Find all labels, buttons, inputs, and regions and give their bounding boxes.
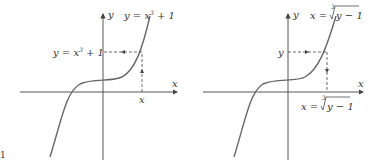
curve-label: y = x3 + 1 xyxy=(123,9,175,21)
y-value-label: y = x3 + 1 xyxy=(52,46,104,58)
curve-label: x = 3 y − 1 xyxy=(310,3,363,21)
svg-text:y − 1: y − 1 xyxy=(326,101,354,112)
figure-marker: 1 xyxy=(0,150,6,160)
arrow-right-icon xyxy=(305,50,309,54)
x-value-label: x = 3 y − 1 xyxy=(301,94,354,112)
y-axis-label: y xyxy=(292,9,299,20)
svg-text:x =: x = xyxy=(310,10,327,21)
x-value-label: x xyxy=(139,94,145,105)
inverse-function-diagram: y x y = x3 + 1 y = x3 + 1 x y x x = 3 y … xyxy=(0,0,378,168)
arrow-left-icon xyxy=(121,50,125,54)
cubic-curve xyxy=(234,16,336,157)
arrow-up-icon xyxy=(140,69,144,73)
x-axis-label: x xyxy=(172,78,178,89)
x-axis-label: x xyxy=(358,78,364,89)
left-panel: y x y = x3 + 1 y = x3 + 1 x xyxy=(20,9,178,160)
arrow-down-icon xyxy=(325,69,329,73)
svg-text:y − 1: y − 1 xyxy=(335,10,363,21)
svg-text:x =: x = xyxy=(301,101,318,112)
y-axis-label: y xyxy=(107,9,114,20)
cubic-curve xyxy=(50,16,150,157)
right-panel: y x x = 3 y − 1 y x = 3 y − 1 xyxy=(203,3,364,160)
y-value-label: y xyxy=(277,47,284,58)
